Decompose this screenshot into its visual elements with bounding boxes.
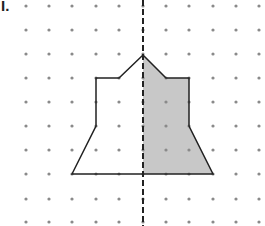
grid-dot: [117, 28, 120, 31]
grid-dot: [211, 220, 214, 223]
grid-dot: [94, 28, 97, 31]
grid-dot: [164, 124, 167, 127]
grid-dot: [24, 52, 27, 55]
grid-dot: [257, 76, 260, 79]
grid-dot: [24, 172, 27, 175]
grid-dot: [257, 124, 260, 127]
grid-dot: [187, 148, 190, 151]
grid-dot: [47, 148, 50, 151]
grid-dot: [117, 100, 120, 103]
grid-dot: [94, 220, 97, 223]
grid-dot: [24, 124, 27, 127]
grid-dot: [164, 4, 167, 7]
grid-dot: [117, 124, 120, 127]
grid-dot: [164, 52, 167, 55]
grid-dot: [257, 172, 260, 175]
grid-dot: [70, 76, 73, 79]
grid-dot: [24, 197, 27, 200]
grid-dot: [164, 28, 167, 31]
grid-dot: [47, 124, 50, 127]
grid-dot: [70, 148, 73, 151]
grid-dot: [164, 220, 167, 223]
grid-dot: [257, 28, 260, 31]
grid-dot: [234, 76, 237, 79]
grid-dot: [47, 220, 50, 223]
grid-dot: [234, 4, 237, 7]
grid-dot: [211, 100, 214, 103]
grid-dot: [234, 100, 237, 103]
grid-dot: [164, 197, 167, 200]
grid-dot: [211, 76, 214, 79]
grid-dot: [70, 52, 73, 55]
grid-dot: [47, 28, 50, 31]
grid-dot: [24, 100, 27, 103]
grid-dot: [187, 197, 190, 200]
grid-dot: [117, 148, 120, 151]
grid-dot: [47, 52, 50, 55]
grid-dot: [24, 76, 27, 79]
grid-dot: [234, 172, 237, 175]
grid-dot: [234, 52, 237, 55]
grid-dot: [117, 197, 120, 200]
grid-dot: [24, 148, 27, 151]
grid-dot: [47, 197, 50, 200]
grid-dot: [211, 148, 214, 151]
grid-dot: [24, 4, 27, 7]
grid-dot: [94, 4, 97, 7]
grid-dot: [24, 220, 27, 223]
grid-dot: [257, 220, 260, 223]
grid-dot: [70, 28, 73, 31]
grid-dot: [257, 197, 260, 200]
grid-dot: [164, 148, 167, 151]
grid-dot: [164, 100, 167, 103]
grid-dot: [211, 52, 214, 55]
grid-dot: [70, 124, 73, 127]
grid-dot: [187, 4, 190, 7]
grid-dot: [47, 172, 50, 175]
grid-dot: [117, 220, 120, 223]
grid-dot: [211, 124, 214, 127]
grid-dot: [117, 52, 120, 55]
grid-dot: [187, 52, 190, 55]
grid-dot: [257, 148, 260, 151]
grid-dot: [187, 220, 190, 223]
grid-dot: [94, 148, 97, 151]
grid-dot: [47, 100, 50, 103]
grid-dot: [257, 100, 260, 103]
grid-dot: [70, 100, 73, 103]
grid-dot: [211, 197, 214, 200]
shaded-right-half: [143, 55, 213, 174]
grid-dot: [47, 4, 50, 7]
dot-grid-figure: [0, 0, 265, 226]
grid-dot: [24, 28, 27, 31]
grid-dot: [234, 124, 237, 127]
grid-dot: [187, 28, 190, 31]
grid-dot: [257, 52, 260, 55]
grid-dot: [70, 197, 73, 200]
grid-dot: [94, 197, 97, 200]
grid-dot: [47, 76, 50, 79]
grid-dot: [70, 220, 73, 223]
grid-dot: [257, 4, 260, 7]
grid-dot: [234, 197, 237, 200]
grid-dot: [94, 52, 97, 55]
grid-dot: [211, 4, 214, 7]
grid-dot: [234, 220, 237, 223]
grid-dot: [234, 28, 237, 31]
grid-dot: [234, 148, 237, 151]
grid-dot: [70, 4, 73, 7]
grid-dot: [117, 4, 120, 7]
grid-dot: [211, 28, 214, 31]
